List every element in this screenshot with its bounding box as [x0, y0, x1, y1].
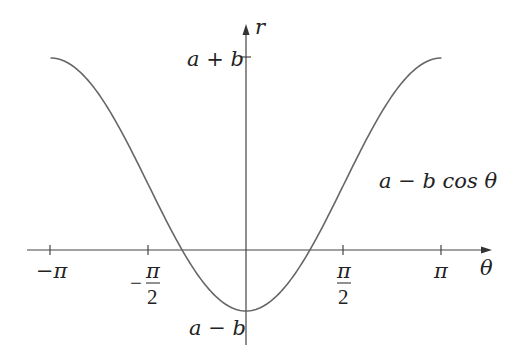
tick-label-a-plus-b: a + b [187, 47, 244, 71]
svg-text:2: 2 [338, 285, 349, 309]
tick-label-pi: π [433, 259, 449, 283]
y-axis-label: r [255, 15, 267, 39]
svg-text:π: π [336, 259, 352, 283]
x-axis-label: θ [480, 256, 493, 280]
tick-label-half-pi: π 2 [336, 259, 352, 309]
x-axis-arrow-icon [481, 247, 492, 254]
svg-text:−: − [130, 271, 142, 295]
chart: r θ a + b a − b a − b cos θ −π π − π 2 π… [0, 0, 526, 362]
svg-text:2: 2 [147, 285, 158, 309]
tick-label-a-minus-b: a − b [189, 316, 246, 340]
tick-label-neg-pi: −π [36, 259, 69, 283]
tick-label-neg-half-pi: − π 2 [130, 259, 161, 309]
curve-label: a − b cos θ [379, 169, 497, 193]
svg-text:π: π [145, 259, 161, 283]
y-axis-arrow-icon [243, 24, 250, 35]
